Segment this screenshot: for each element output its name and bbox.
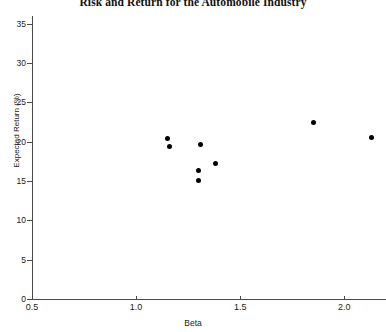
y-tick-mark [27, 260, 32, 261]
x-tick-label: 1.0 [116, 303, 156, 312]
scatter-point [213, 161, 218, 166]
scatter-point [196, 168, 201, 173]
y-tick-mark [27, 142, 32, 143]
y-tick-mark [27, 63, 32, 64]
chart-figure: Risk and Return for the Automobile Indus… [0, 0, 386, 332]
y-tick-label: 30 [0, 59, 26, 68]
x-tick-mark [136, 296, 137, 300]
scatter-point [369, 135, 374, 140]
y-tick-mark [27, 220, 32, 221]
y-axis-line [32, 16, 33, 300]
scatter-point [196, 178, 201, 183]
chart-title: Risk and Return for the Automobile Indus… [0, 0, 386, 8]
y-axis-title: Expected Return (%) [12, 71, 21, 191]
y-tick-mark [27, 102, 32, 103]
y-tick-label: 10 [0, 216, 26, 225]
x-tick-label: 0.5 [12, 303, 52, 312]
scatter-point [311, 120, 316, 125]
scatter-point [198, 142, 203, 147]
x-tick-label: 1.5 [220, 303, 260, 312]
x-tick-mark [344, 296, 345, 300]
y-tick-label: 35 [0, 20, 26, 29]
x-tick-mark [240, 296, 241, 300]
scatter-point [165, 136, 170, 141]
y-tick-mark [27, 24, 32, 25]
x-tick-label: 2.0 [324, 303, 364, 312]
x-axis-title: Beta [0, 318, 386, 328]
scatter-point [167, 144, 172, 149]
y-tick-label: 5 [0, 256, 26, 265]
x-axis-line [32, 299, 386, 300]
y-tick-mark [27, 181, 32, 182]
y-tick-mark [27, 299, 32, 300]
